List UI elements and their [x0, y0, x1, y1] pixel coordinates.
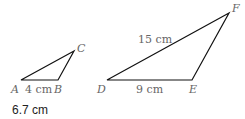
side-df-length: 15 cm [138, 33, 173, 46]
answer-text: 6.7 cm [12, 103, 48, 117]
vertex-label-a: A [10, 83, 19, 96]
vertex-label-f: F [231, 2, 240, 15]
vertex-label-d: D [96, 83, 106, 96]
vertex-label-b: B [53, 83, 62, 96]
vertex-label-e: E [188, 83, 197, 96]
triangle-abc [21, 51, 74, 80]
similar-triangles-diagram: A 4 cm B C D 9 cm E F 15 cm [0, 0, 245, 119]
vertex-label-c: C [77, 42, 86, 55]
side-ab-length: 4 cm [25, 83, 53, 96]
side-de-length: 9 cm [136, 83, 164, 96]
triangle-def [107, 13, 229, 80]
